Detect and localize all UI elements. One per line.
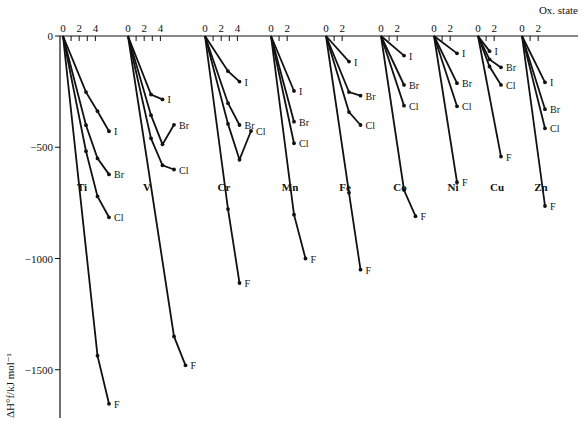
data-point bbox=[161, 163, 165, 167]
halide-label: I bbox=[495, 46, 498, 57]
x-tick-label: 2 bbox=[447, 22, 453, 34]
halide-label: Cl bbox=[114, 212, 124, 223]
data-point bbox=[292, 213, 296, 217]
halide-label: I bbox=[462, 48, 465, 59]
data-point bbox=[107, 215, 111, 219]
element-group-ti: 024IBrClFTi bbox=[60, 22, 124, 410]
data-point bbox=[96, 195, 100, 199]
element-label: Cr bbox=[218, 181, 231, 193]
halide-label: F bbox=[462, 177, 468, 188]
halide-label: I bbox=[114, 126, 117, 137]
data-point bbox=[96, 156, 100, 160]
data-point bbox=[107, 129, 111, 133]
data-point bbox=[149, 136, 153, 140]
element-group-cr: 024IBrClFCr bbox=[202, 22, 265, 289]
data-point bbox=[238, 281, 242, 285]
data-point bbox=[414, 214, 418, 218]
x-tick-label: 2 bbox=[218, 22, 224, 34]
halide-label: Cl bbox=[299, 138, 309, 149]
data-point bbox=[543, 126, 547, 130]
data-point bbox=[84, 149, 88, 153]
data-point bbox=[543, 80, 547, 84]
data-point bbox=[161, 142, 165, 146]
element-group-co: 02IBrClFCo bbox=[378, 22, 426, 222]
data-point bbox=[149, 113, 153, 117]
data-point bbox=[226, 207, 230, 211]
element-group-ni: 02IBrClFNi bbox=[431, 22, 472, 193]
element-label: Co bbox=[393, 181, 407, 193]
series-line-fe-f bbox=[326, 36, 361, 270]
halide-label: Br bbox=[299, 117, 310, 128]
halide-label: F bbox=[311, 254, 317, 265]
x-tick-label: 4 bbox=[158, 22, 164, 34]
halide-label: I bbox=[550, 77, 553, 88]
element-label: Ti bbox=[77, 181, 87, 193]
element-group-fe: 02IBrClFFe bbox=[323, 22, 376, 276]
formation-enthalpy-chart: 0−500−1000−1500ΔH°f/kJ mol⁻¹Ox. state 02… bbox=[0, 0, 586, 432]
data-point bbox=[249, 129, 253, 133]
halide-label: I bbox=[409, 51, 412, 62]
halide-label: Br bbox=[114, 169, 125, 180]
halide-label: Cl bbox=[256, 126, 266, 137]
halide-label: Cl bbox=[409, 101, 419, 112]
data-point bbox=[161, 98, 165, 102]
x-tick-label: 0 bbox=[268, 22, 274, 34]
halide-label: Br bbox=[462, 78, 473, 89]
data-point bbox=[84, 123, 88, 127]
y-tick-label: 0 bbox=[48, 30, 54, 42]
axes: 0−500−1000−1500ΔH°f/kJ mol⁻¹Ox. state bbox=[4, 4, 578, 418]
halide-label: F bbox=[421, 211, 427, 222]
series-line-ti-i bbox=[63, 36, 109, 131]
data-point bbox=[172, 334, 176, 338]
x-tick-label: 0 bbox=[323, 22, 329, 34]
halide-label: F bbox=[366, 265, 372, 276]
data-point bbox=[304, 257, 308, 261]
data-point bbox=[107, 172, 111, 176]
halide-label: F bbox=[506, 152, 512, 163]
data-point bbox=[359, 94, 363, 98]
data-point bbox=[455, 104, 459, 108]
data-point bbox=[347, 110, 351, 114]
x-tick-label: 0 bbox=[125, 22, 131, 34]
series-line-cr-f bbox=[205, 36, 240, 283]
y-tick-label: −1500 bbox=[25, 364, 54, 376]
x-tick-label: 0 bbox=[431, 22, 437, 34]
data-point bbox=[184, 363, 188, 367]
element-group-cu: 02IBrClFCu bbox=[475, 22, 516, 193]
data-point bbox=[359, 123, 363, 127]
data-point bbox=[172, 168, 176, 172]
halide-label: Br bbox=[245, 120, 256, 131]
data-point bbox=[488, 49, 492, 53]
data-point bbox=[226, 101, 230, 105]
data-point bbox=[96, 109, 100, 113]
data-point bbox=[499, 65, 503, 69]
x-tick-label: 0 bbox=[60, 22, 66, 34]
data-point bbox=[238, 80, 242, 84]
x-tick-label: 2 bbox=[339, 22, 345, 34]
data-point bbox=[292, 120, 296, 124]
halide-label: Cl bbox=[462, 101, 472, 112]
data-point bbox=[488, 65, 492, 69]
series-line-ni-cl bbox=[434, 36, 457, 106]
x-tick-label: 2 bbox=[394, 22, 400, 34]
data-point bbox=[499, 83, 503, 87]
data-point bbox=[359, 268, 363, 272]
halide-label: Br bbox=[366, 91, 377, 102]
x-tick-label: 2 bbox=[141, 22, 147, 34]
data-point bbox=[402, 54, 406, 58]
data-point bbox=[172, 123, 176, 127]
data-point bbox=[347, 90, 351, 94]
x-tick-label: 2 bbox=[76, 22, 82, 34]
data-point bbox=[107, 402, 111, 406]
data-point bbox=[96, 354, 100, 358]
data-point bbox=[84, 90, 88, 94]
element-label: V bbox=[143, 181, 151, 193]
halide-label: Cl bbox=[550, 123, 560, 134]
element-label: Cu bbox=[490, 181, 504, 193]
x-tick-label: 2 bbox=[284, 22, 290, 34]
element-group-zn: 02IBrClFZn bbox=[519, 22, 560, 212]
data-point bbox=[238, 123, 242, 127]
x-axis-label: Ox. state bbox=[539, 4, 578, 16]
data-point bbox=[402, 104, 406, 108]
halide-label: I bbox=[168, 94, 171, 105]
